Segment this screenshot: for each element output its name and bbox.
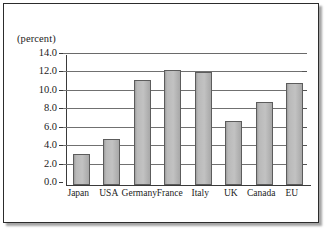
gridline (63, 53, 307, 54)
bar-usa (103, 139, 120, 185)
y-axis-tick (59, 53, 63, 54)
y-axis-unit-label: (percent) (17, 33, 56, 44)
chart-figure: (percent) 14.012.010.08.06.04.02.00.0 Ja… (0, 0, 327, 231)
plot-area (66, 56, 310, 185)
y-axis-tick-label: 2.0 (11, 159, 57, 170)
y-axis-tick-label: 10.0 (11, 85, 57, 96)
bar-germany (134, 80, 151, 185)
y-axis-tick (59, 90, 63, 91)
bar-japan (73, 154, 90, 185)
y-axis-tick-label: 4.0 (11, 140, 57, 151)
x-axis-line (66, 185, 311, 186)
x-axis-tick-label: UK (224, 189, 238, 199)
bar-eu (286, 83, 303, 185)
x-axis-tick-label: France (157, 189, 183, 199)
y-axis-tick-label: 14.0 (11, 48, 57, 59)
y-axis-tick-label: 0.0 (11, 177, 57, 188)
x-axis-tick-label: USA (99, 189, 118, 199)
x-axis-tick-label: Germany (122, 189, 157, 199)
x-axis-tick-label: Japan (67, 189, 89, 199)
y-axis-tick-label: 12.0 (11, 66, 57, 77)
bar-uk (225, 121, 242, 185)
x-axis-tick-label: Italy (192, 189, 209, 199)
x-axis-tick-label: Canada (247, 189, 276, 199)
bar-italy (195, 72, 212, 185)
y-axis-tick (59, 164, 63, 165)
y-axis-tick (59, 127, 63, 128)
x-axis-tick-label: EU (285, 189, 298, 199)
y-axis-tick (59, 108, 63, 109)
bar-france (164, 70, 181, 185)
y-axis-tick-label: 6.0 (11, 122, 57, 133)
y-axis-tick-label: 8.0 (11, 103, 57, 114)
chart-frame: (percent) 14.012.010.08.06.04.02.00.0 Ja… (3, 3, 319, 223)
y-axis-tick (59, 145, 63, 146)
bar-canada (256, 102, 273, 185)
y-axis-tick (59, 71, 63, 72)
y-axis-tick (59, 182, 63, 183)
